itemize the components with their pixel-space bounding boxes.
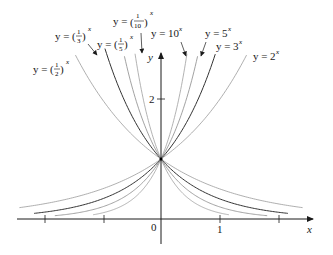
- svg-text:y =: y =: [55, 30, 69, 42]
- label-ten-power: y = 10 x: [151, 25, 186, 56]
- svg-text:2: 2: [55, 70, 59, 78]
- x-tick-label-0: 0: [151, 221, 157, 233]
- label-fifth-power: y = ( 1 5 ) x: [97, 33, 134, 53]
- curve-half: [75, 55, 302, 208]
- svg-text:2: 2: [270, 50, 276, 62]
- arrow-five: [201, 42, 206, 56]
- svg-text:): ): [60, 63, 64, 76]
- y-axis-label: y: [147, 51, 153, 63]
- svg-text:10: 10: [168, 27, 180, 39]
- svg-text:1: 1: [136, 12, 140, 20]
- label-three-power: y = 3 x: [216, 38, 243, 52]
- label-third-power: y = ( 1 3 ) x: [55, 25, 97, 55]
- curve-ten: [93, 54, 187, 215]
- svg-text:10: 10: [134, 22, 142, 30]
- x-tick-label-1: 1: [217, 223, 223, 235]
- svg-text:x: x: [227, 25, 232, 33]
- curve-tenth: [135, 54, 229, 215]
- svg-text:y =: y =: [253, 50, 267, 62]
- curve-three: [34, 54, 215, 213]
- curve-fifth: [124, 56, 267, 215]
- label-two-power: y = 2 x: [253, 48, 280, 62]
- arrow-third: [88, 44, 97, 55]
- curve-five: [55, 56, 198, 215]
- svg-text:): ): [82, 30, 86, 43]
- x-axis-label: x: [306, 223, 312, 235]
- common-point: [159, 157, 162, 160]
- svg-text:y =: y =: [97, 38, 111, 50]
- svg-text:x: x: [129, 33, 134, 41]
- svg-text:x: x: [238, 38, 243, 46]
- svg-text:1: 1: [77, 28, 81, 36]
- svg-text:): ): [124, 38, 128, 51]
- arrow-ten: [181, 42, 186, 56]
- label-half-power: y = ( 1 2 ) x: [33, 58, 70, 78]
- svg-text:(: (: [50, 63, 54, 76]
- svg-text:(: (: [114, 38, 118, 51]
- svg-text:1: 1: [55, 61, 59, 69]
- arrow-tenth: [141, 33, 142, 53]
- svg-text:x: x: [275, 48, 280, 56]
- svg-text:3: 3: [77, 37, 81, 45]
- svg-text:y =: y =: [33, 63, 47, 75]
- svg-text:x: x: [178, 25, 183, 33]
- svg-text:): ): [144, 16, 148, 29]
- curve-two: [19, 55, 246, 208]
- svg-text:x: x: [149, 9, 154, 17]
- svg-text:x: x: [65, 58, 70, 66]
- svg-text:y =: y =: [113, 15, 127, 27]
- svg-text:5: 5: [119, 45, 123, 53]
- y-tick-label-2: 2: [149, 93, 155, 105]
- svg-text:1: 1: [119, 36, 123, 44]
- curve-third: [105, 49, 288, 214]
- exponential-graph: x y 0 1 2 y = ( 1 2 ) x y = ( 1 3 ) x y …: [0, 0, 333, 255]
- svg-text:y =: y =: [216, 40, 230, 52]
- svg-text:y =: y =: [151, 27, 165, 39]
- svg-text:y =: y =: [205, 27, 219, 39]
- svg-text:(: (: [72, 30, 76, 43]
- svg-text:x: x: [87, 25, 92, 33]
